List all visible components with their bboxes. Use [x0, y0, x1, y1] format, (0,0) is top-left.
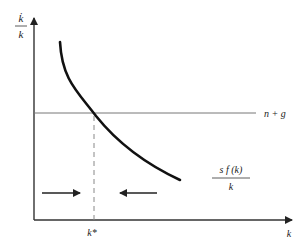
sfk-over-k-curve: [60, 42, 180, 180]
solow-diagram: k̇ k n + g s f (k) k k* k: [0, 0, 307, 252]
x-axis-label: k: [287, 228, 292, 239]
curve-label-numerator: s f (k): [220, 164, 243, 176]
n-plus-g-label: n + g: [264, 108, 286, 119]
y-axis-label-denominator: k: [19, 28, 25, 40]
k-star-label: k*: [87, 227, 96, 238]
y-axis-label-numerator: k̇: [19, 12, 25, 24]
curve-label-denominator: k: [229, 181, 234, 192]
